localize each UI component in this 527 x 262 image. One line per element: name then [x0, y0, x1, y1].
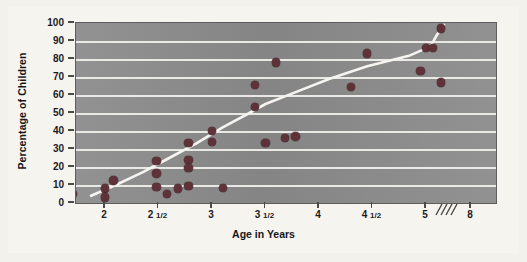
y-axis-tick-label: 80: [36, 53, 64, 64]
data-point: [261, 139, 269, 147]
x-axis-tick: [210, 202, 211, 208]
x-axis-tick: [424, 202, 425, 208]
data-point: [437, 24, 445, 32]
y-axis-tick-label: 40: [36, 125, 64, 136]
data-point: [219, 184, 227, 192]
y-axis-tick: [68, 39, 74, 40]
x-axis-tick: [264, 202, 265, 208]
y-axis-tick: [68, 21, 74, 22]
x-axis-tick-label: 2 1/2: [148, 209, 167, 220]
x-axis-tick-label: 5: [422, 209, 428, 220]
x-axis-tick: [103, 202, 104, 208]
data-point: [152, 157, 160, 165]
y-axis-tick: [68, 147, 74, 148]
y-axis-tick-label: 100: [36, 17, 64, 28]
y-axis-tick: [68, 111, 74, 112]
y-axis-tick-label: 60: [36, 89, 64, 100]
x-axis-tick-label: 4: [315, 209, 321, 220]
y-axis-tick: [68, 57, 74, 58]
y-axis-tick-label: 50: [36, 107, 64, 118]
data-point: [174, 184, 182, 192]
data-point: [184, 182, 192, 190]
figure-container: Percentage of Children 01020304050607080…: [0, 0, 527, 262]
x-axis-tick-label: 8: [467, 209, 473, 220]
data-point: [152, 183, 160, 191]
data-point: [109, 176, 117, 184]
y-axis-tick: [68, 165, 74, 166]
data-point: [101, 193, 109, 201]
data-point: [416, 67, 424, 75]
data-point: [184, 139, 192, 147]
y-axis-tick-label: 30: [36, 143, 64, 154]
x-axis-title: Age in Years: [0, 228, 527, 240]
data-point: [251, 103, 259, 111]
y-axis-tick-label: 0: [36, 197, 64, 208]
x-axis-tick: [317, 202, 318, 208]
x-axis-tick-label: 3: [208, 209, 214, 220]
plot-area: [75, 22, 497, 204]
x-axis-tick-label: 3 1/2: [255, 209, 274, 220]
x-axis-tick: [469, 202, 470, 208]
trend-line: [91, 25, 444, 196]
x-axis-tick-label: 4 1/2: [362, 209, 381, 220]
y-axis-tick: [68, 201, 74, 202]
y-axis-tick: [68, 129, 74, 130]
data-point: [184, 164, 192, 172]
data-point: [101, 184, 109, 192]
data-point: [152, 169, 160, 177]
data-point: [437, 78, 445, 86]
data-point: [363, 49, 371, 57]
y-axis-tick-label: 70: [36, 71, 64, 82]
data-point: [291, 132, 299, 140]
y-axis-tick-label: 90: [36, 35, 64, 46]
data-point: [184, 156, 192, 164]
x-axis-tick-label: 2: [101, 209, 107, 220]
y-axis-tick: [68, 183, 74, 184]
y-axis-tick-label: 20: [36, 161, 64, 172]
y-axis-title: Percentage of Children: [16, 21, 28, 201]
y-axis-tick: [68, 93, 74, 94]
y-axis-tick: [68, 75, 74, 76]
y-axis-tick-label: 10: [36, 179, 64, 190]
x-axis-tick: [157, 202, 158, 208]
axis-break-icon: [432, 203, 462, 217]
x-axis-tick: [371, 202, 372, 208]
